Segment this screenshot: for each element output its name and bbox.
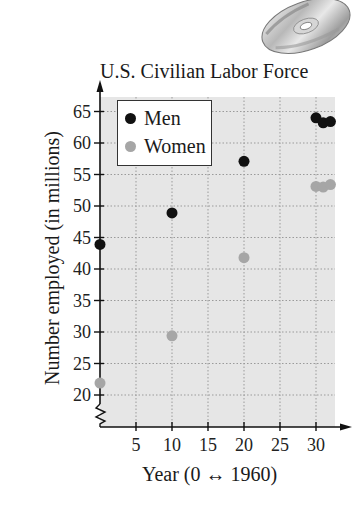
data-point-women — [95, 378, 106, 389]
y-tick-label: 65 — [73, 102, 91, 122]
x-tick-label: 5 — [132, 435, 141, 455]
y-tick-label: 25 — [73, 354, 91, 374]
legend-marker-women — [125, 141, 136, 152]
data-point-women — [239, 252, 250, 263]
x-tick-label: 25 — [271, 435, 289, 455]
x-tick-label: 20 — [235, 435, 253, 455]
y-tick-label: 20 — [73, 385, 91, 405]
y-tick-label: 35 — [73, 291, 91, 311]
y-tick-label: 40 — [73, 259, 91, 279]
legend-marker-men — [125, 113, 136, 124]
x-tick-label: 15 — [199, 435, 217, 455]
y-tick-label: 55 — [73, 165, 91, 185]
legend: Men Women — [117, 100, 212, 166]
data-point-men — [167, 207, 178, 218]
data-point-men — [95, 239, 106, 250]
x-tick-label: 30 — [307, 435, 325, 455]
y-tick-label: 30 — [73, 322, 91, 342]
data-point-men — [239, 156, 250, 167]
chart-figure: U.S. Civilian Labor Force Number employe… — [0, 0, 360, 516]
data-point-men — [325, 116, 336, 127]
y-axis-arrow — [97, 80, 104, 92]
legend-item-men: Men — [125, 107, 181, 130]
y-tick-label: 60 — [73, 133, 91, 153]
y-tick-label: 45 — [73, 228, 91, 248]
x-axis-arrow — [340, 424, 352, 431]
legend-label-women: Women — [144, 135, 206, 158]
legend-item-women: Women — [125, 135, 206, 158]
data-point-women — [325, 179, 336, 190]
legend-label-men: Men — [144, 107, 181, 130]
y-tick-label: 50 — [73, 196, 91, 216]
x-axis-label: Year (0 ↔ 1960) — [142, 463, 277, 486]
x-tick-label: 10 — [163, 435, 181, 455]
plot-area: 20253035404550556065 51015202530 — [0, 0, 360, 516]
data-point-women — [167, 330, 178, 341]
